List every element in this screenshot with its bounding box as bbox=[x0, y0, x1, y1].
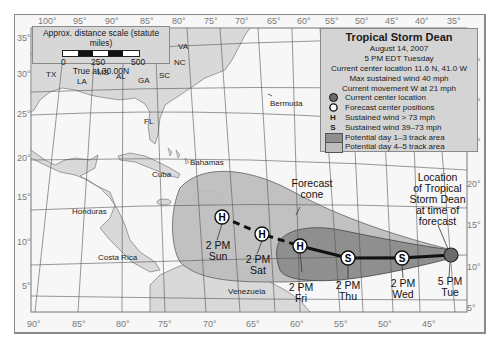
lat-tick: 30° bbox=[17, 70, 31, 79]
jamaica-land bbox=[157, 199, 171, 205]
lon-tick: 70° bbox=[203, 320, 217, 329]
label-costa-rica: Costa Rica bbox=[98, 253, 137, 262]
lon-tick: 85° bbox=[140, 17, 154, 26]
svg-text:H: H bbox=[296, 241, 303, 252]
lon-tick: 80° bbox=[172, 17, 186, 26]
distance-scale: Approx. distance scale (statute miles) 0… bbox=[32, 26, 170, 64]
storm-date: August 14, 2007 bbox=[321, 44, 477, 54]
lat-tick: 35° bbox=[17, 34, 31, 43]
lon-tick: 75° bbox=[204, 17, 218, 26]
lon-tick: 55° bbox=[325, 17, 339, 26]
label-ms: MS bbox=[97, 68, 109, 77]
lon-tick: 75° bbox=[158, 320, 172, 329]
label-bermuda: Bermuda bbox=[270, 99, 302, 108]
forecast-cone-label: Forecast cone bbox=[282, 178, 342, 200]
lat-tick: 5° bbox=[22, 282, 31, 291]
track-label-sat: 2 PMSat bbox=[238, 254, 278, 276]
label-sc: SC bbox=[159, 71, 170, 80]
hurricane-h-icon: H bbox=[327, 113, 339, 123]
storm-time: 5 PM EDT Tuesday bbox=[321, 54, 477, 64]
label-ga: GA bbox=[138, 76, 150, 85]
svg-text:H: H bbox=[218, 212, 225, 223]
label-fl: FL bbox=[144, 117, 153, 126]
current-location-text: Current center location 11.6 N, 41.0 W bbox=[321, 64, 477, 74]
lon-tick: 50° bbox=[378, 320, 392, 329]
day45-swatch-icon bbox=[325, 142, 343, 153]
legend-box: Tropical Storm Dean August 14, 2007 5 PM… bbox=[320, 28, 478, 152]
label-nc: NC bbox=[174, 58, 186, 67]
label-al: AL bbox=[116, 72, 126, 81]
lon-tick: 95° bbox=[73, 17, 87, 26]
lat-tick: 15° bbox=[17, 193, 31, 202]
lon-tick: 45° bbox=[422, 320, 436, 329]
lon-tick: 90° bbox=[27, 320, 41, 329]
lon-tick: 35° bbox=[447, 17, 461, 26]
label-venezuela: Venezuela bbox=[228, 287, 265, 296]
scale-bar bbox=[62, 50, 140, 57]
lon-tick: 65° bbox=[246, 320, 260, 329]
lat-tick: 10° bbox=[467, 263, 481, 272]
label-va: VA bbox=[178, 42, 188, 51]
label-tx: TX bbox=[46, 70, 56, 79]
lon-tick: 45° bbox=[385, 17, 399, 26]
lat-tick: 5° bbox=[467, 304, 476, 313]
lat-tick: 25° bbox=[17, 110, 31, 119]
lon-tick: 60° bbox=[290, 320, 304, 329]
track-label-sun: 2 PMSun bbox=[198, 240, 238, 262]
lat-tick: 20° bbox=[17, 154, 31, 163]
scale-ticks: 0 250 500 bbox=[51, 57, 151, 66]
scale-title: Approx. distance scale (statute miles) bbox=[33, 28, 169, 48]
storm-s-icon: S bbox=[327, 123, 339, 133]
lon-tick: 55° bbox=[334, 320, 348, 329]
lon-tick: 85° bbox=[72, 320, 86, 329]
svg-text:S: S bbox=[399, 253, 406, 264]
storm-title: Tropical Storm Dean bbox=[321, 31, 477, 44]
lon-tick: 100° bbox=[38, 17, 57, 26]
lon-tick: 65° bbox=[267, 17, 281, 26]
lat-tick: 10° bbox=[17, 238, 31, 247]
label-la: LA bbox=[77, 77, 87, 86]
track-label-wed: 2 PMWed bbox=[383, 278, 423, 300]
lon-tick: 40° bbox=[415, 17, 429, 26]
svg-text:H: H bbox=[258, 229, 265, 240]
label-honduras: Honduras bbox=[72, 207, 107, 216]
current-location-annotation: Location of Tropical Storm Dean at time … bbox=[400, 172, 475, 227]
max-wind-text: Max sustained wind 40 mph bbox=[321, 74, 477, 84]
svg-text:S: S bbox=[345, 253, 352, 264]
lon-tick: 80° bbox=[116, 320, 130, 329]
lon-tick: 90° bbox=[105, 17, 119, 26]
lon-tick: 60° bbox=[297, 17, 311, 26]
lon-tick: 50° bbox=[355, 17, 369, 26]
lon-tick: 70° bbox=[235, 17, 249, 26]
track-label-fri: 2 PMFri bbox=[281, 282, 321, 304]
track-label-thu: 2 PMThu bbox=[328, 280, 368, 302]
track-label-tue: 5 PMTue bbox=[430, 276, 470, 298]
label-bahamas: Bahamas bbox=[190, 158, 224, 167]
label-cuba: Cuba bbox=[152, 170, 171, 179]
